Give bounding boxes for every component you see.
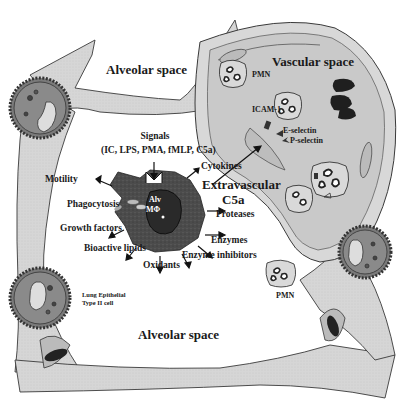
label-epithelial-line2: Type II cell: [82, 300, 113, 307]
label-icam: ICAM-1: [252, 106, 281, 114]
label-proteases: Proteases: [216, 210, 254, 220]
label-cytokines: Cytokines: [201, 162, 242, 172]
label-extravascular: Extravascular: [202, 178, 281, 191]
label-phagocytosis: Phagocytosis: [67, 200, 119, 210]
label-motility: Motility: [45, 175, 78, 185]
label-p-selectin: P-selectin: [290, 137, 323, 145]
label-macrophage: MΦ: [146, 206, 160, 214]
label-growth-factors: Growth factors: [60, 224, 122, 234]
label-oxidants: Oxidants: [143, 261, 180, 271]
label-pmn-vascular: PMN: [252, 71, 270, 79]
label-e-selectin: E-selectin: [283, 127, 316, 135]
label-enzymes: Enzymes: [211, 236, 247, 246]
label-signal-list: (IC, LPS, PMA, fMLP, C5a): [101, 146, 216, 156]
label-alveolar-space-bottom: Alveolar space: [138, 328, 219, 341]
label-pmn-alveolar: PMN: [276, 292, 294, 300]
label-alveolar-space-top: Alveolar space: [106, 63, 187, 76]
label-enzyme-inhibitors: Enzyme inhibitors: [182, 251, 257, 261]
macrophage-diagram: Alveolar space Vascular space Alveolar s…: [0, 0, 406, 407]
label-bioactive-lipids: Bioactive lipids: [84, 244, 146, 254]
label-signals: Signals: [120, 132, 190, 142]
label-vascular-space: Vascular space: [272, 55, 354, 68]
label-epithelial-line1: Lung Epithelial: [82, 292, 126, 299]
label-c5a: C5a: [222, 193, 244, 206]
label-alv: Alv: [149, 196, 161, 204]
